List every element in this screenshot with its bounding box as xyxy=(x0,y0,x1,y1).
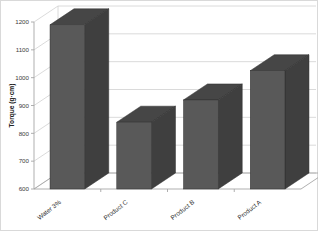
y-tick-label: 900 xyxy=(19,102,30,109)
bars xyxy=(50,9,309,189)
bar-front-face xyxy=(50,25,85,189)
y-tick-label: 600 xyxy=(19,185,30,192)
bar-front-face xyxy=(117,122,152,189)
y-tick-label: 1100 xyxy=(16,46,30,53)
category-label-1: Water 3% xyxy=(36,198,62,221)
bar-side-face xyxy=(85,9,109,189)
bar-chart: 600700800900100011001200Water 3%Product … xyxy=(1,1,318,231)
y-tick-label: 1000 xyxy=(15,74,29,81)
category-label-4: Product A xyxy=(236,198,263,221)
category-label-2: Product C xyxy=(102,198,129,221)
y-tick-label: 800 xyxy=(19,130,30,137)
bar-side-face xyxy=(218,84,242,189)
y-tick-label: 1200 xyxy=(15,18,29,25)
bar-3[interactable] xyxy=(184,84,243,189)
y-axis-ticks: 600700800900100011001200 xyxy=(15,18,34,192)
bar-2[interactable] xyxy=(117,106,176,189)
wall-edge xyxy=(34,6,58,22)
bar-4[interactable] xyxy=(250,55,309,189)
category-label-3: Product B xyxy=(169,198,195,221)
bar-side-face xyxy=(285,55,309,189)
chart-container: 600700800900100011001200Water 3%Product … xyxy=(0,0,318,231)
x-axis-labels: Water 3%Product CProduct BProduct A xyxy=(36,198,263,221)
y-tick-label: 700 xyxy=(19,157,30,164)
y-axis-title: Torque (g·cm) xyxy=(8,84,16,128)
bar-front-face xyxy=(184,100,219,189)
bar-front-face xyxy=(250,71,285,189)
bar-1[interactable] xyxy=(50,9,109,189)
